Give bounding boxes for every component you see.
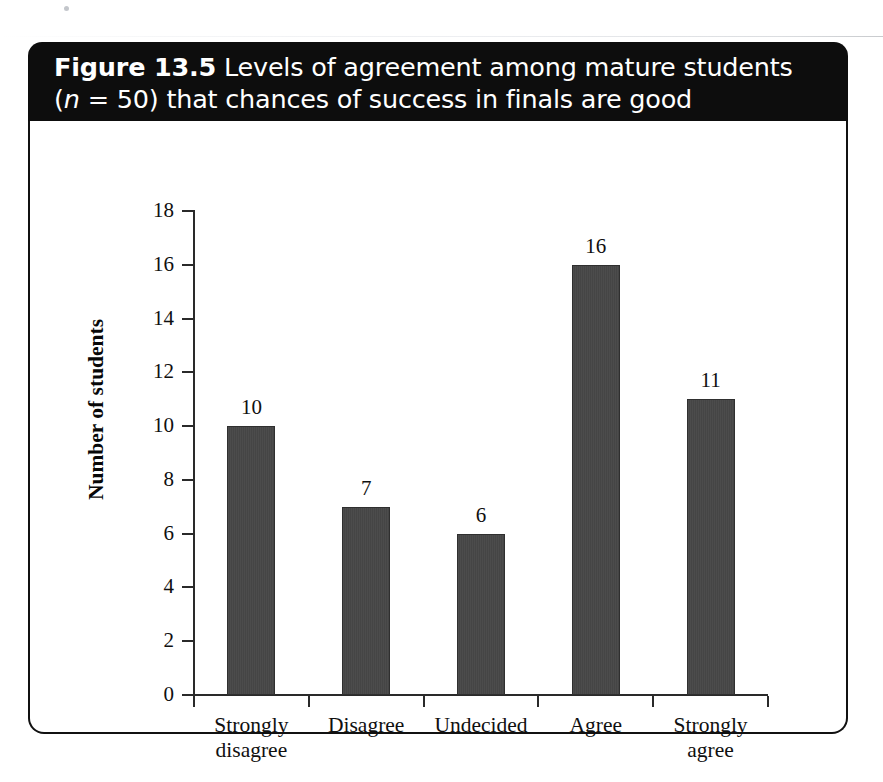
y-axis-tick-label: 12 xyxy=(130,361,174,383)
bar-value-label: 7 xyxy=(326,478,406,499)
scan-artifact-line xyxy=(0,36,883,37)
y-axis-tick-label-text: 0 xyxy=(134,684,174,705)
y-axis-tick xyxy=(182,371,194,373)
x-axis-category-label-line: Strongly xyxy=(641,713,781,738)
y-axis-tick xyxy=(182,533,194,535)
x-axis-tick xyxy=(423,696,425,707)
y-axis-tick-label: 0 xyxy=(130,684,174,706)
y-axis-tick-label-text: 2 xyxy=(134,630,174,651)
bar-value-label: 10 xyxy=(211,397,291,418)
caption-n-symbol: n xyxy=(64,84,80,114)
y-axis-tick-label-text: 16 xyxy=(134,254,174,275)
caption-line-2: (n = 50) that chances of success in fina… xyxy=(54,83,848,115)
y-axis-tick-label: 6 xyxy=(130,523,174,545)
y-axis-tick xyxy=(182,425,194,427)
y-axis-tick-label: 10 xyxy=(130,415,174,437)
y-axis-tick-label: 2 xyxy=(130,630,174,652)
y-axis-tick xyxy=(182,479,194,481)
y-axis-tick-label-text: 6 xyxy=(134,523,174,544)
y-axis-tick-label: 18 xyxy=(130,200,174,222)
y-axis-tick-label-text: 10 xyxy=(134,415,174,436)
x-axis-tick xyxy=(537,696,539,707)
bar xyxy=(687,399,735,695)
scan-artifact-speck xyxy=(64,6,69,11)
x-axis-category-label: Stronglyagree xyxy=(641,713,781,763)
y-axis-tick-label: 8 xyxy=(130,469,174,491)
y-axis-tick xyxy=(182,640,194,642)
bar-value-label: 11 xyxy=(671,370,751,391)
y-axis-tick xyxy=(182,210,194,212)
x-axis-tick xyxy=(193,696,195,707)
bar xyxy=(342,507,390,695)
chart-plot-panel: Number of students 024681012141618 10761… xyxy=(28,121,848,734)
y-axis-line xyxy=(193,210,195,696)
bar-value-label: 16 xyxy=(556,236,636,257)
bar xyxy=(457,534,505,695)
y-axis-tick-label-text: 4 xyxy=(134,576,174,597)
x-axis-tick xyxy=(652,696,654,707)
figure-caption-banner: Figure 13.5 Levels of agreement among ma… xyxy=(28,42,848,122)
figure-13-5: Figure 13.5 Levels of agreement among ma… xyxy=(28,42,848,734)
caption-text-line-2: = 50) that chances of success in finals … xyxy=(88,84,692,114)
y-axis-tick-label-text: 8 xyxy=(134,469,174,490)
bar-chart: Number of students 024681012141618 10761… xyxy=(30,121,846,730)
x-axis-tick xyxy=(767,696,769,707)
bar-value-label: 6 xyxy=(441,505,521,526)
y-axis-tick-label: 4 xyxy=(130,576,174,598)
y-axis-tick xyxy=(182,264,194,266)
bar xyxy=(572,265,620,695)
y-axis-tick-label: 16 xyxy=(130,254,174,276)
y-axis-tick-label-text: 18 xyxy=(134,200,174,221)
x-axis-category-label-line: disagree xyxy=(181,738,321,763)
x-axis-category-label-line: agree xyxy=(641,738,781,763)
caption-line-1: Figure 13.5 Levels of agreement among ma… xyxy=(54,51,848,83)
figure-number: Figure 13.5 xyxy=(54,52,216,82)
y-axis-title: Number of students xyxy=(84,280,109,540)
y-axis-tick xyxy=(182,318,194,320)
bar xyxy=(227,426,275,695)
y-axis-tick-label: 14 xyxy=(130,308,174,330)
caption-text-line-1: Levels of agreement among mature student… xyxy=(224,52,793,82)
y-axis-tick-label-text: 12 xyxy=(134,361,174,382)
caption-paren-open: ( xyxy=(54,84,64,114)
y-axis-tick xyxy=(182,586,194,588)
x-axis-tick xyxy=(308,696,310,707)
y-axis-tick-label-text: 14 xyxy=(134,308,174,329)
